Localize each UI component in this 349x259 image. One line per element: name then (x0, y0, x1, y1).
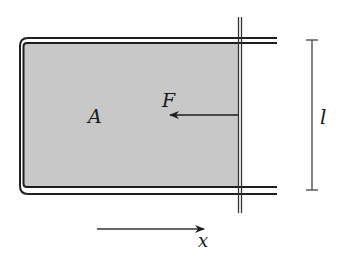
length-dimension (306, 40, 318, 190)
soap-film-diagram: A F l x (0, 0, 349, 259)
length-label: l (320, 105, 326, 129)
force-label: F (161, 89, 176, 111)
x-axis-label: x (198, 230, 208, 251)
area-label: A (86, 105, 102, 127)
